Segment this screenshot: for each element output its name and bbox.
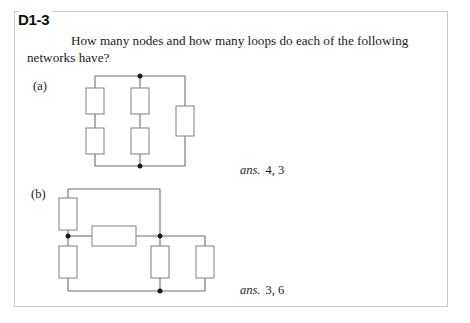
resistor-a-middle-upper [131, 88, 149, 114]
part-label-b: (b) [31, 187, 46, 201]
resistor-b-middle-horizontal [92, 226, 136, 246]
part-label-a: (a) [33, 79, 47, 93]
answer-b: ans.3, 6 [240, 283, 284, 297]
answer-a: ans.4, 3 [240, 163, 284, 177]
node-dot-a-top [138, 74, 143, 79]
answer-b-word: ans. [240, 283, 261, 297]
question-text: How many nodes and how many loops do eac… [27, 32, 437, 66]
node-dot-a-bottom [138, 164, 143, 169]
page-title: D1-3 [18, 11, 52, 29]
node-dot-b-middle [158, 234, 163, 239]
resistor-b-left-lower [59, 246, 77, 278]
scanned-page: D1-3 How many nodes and how many loops d… [0, 0, 470, 323]
resistor-b-left-upper [59, 198, 77, 230]
node-dot-b-left [66, 234, 71, 239]
resistor-b-center-lower [151, 246, 169, 278]
node-dot-b-bottom [158, 289, 163, 294]
answer-b-value: 3, 6 [266, 283, 285, 297]
resistor-b-right-lower [196, 246, 214, 278]
resistor-a-left-upper [86, 88, 104, 114]
resistor-a-left-lower [86, 128, 104, 154]
resistor-a-right [176, 106, 194, 136]
circuit-diagram-b [45, 182, 225, 307]
resistor-a-middle-lower [131, 128, 149, 154]
answer-a-word: ans. [240, 163, 261, 177]
answer-a-value: 4, 3 [266, 163, 285, 177]
circuit-diagram-a [60, 66, 210, 181]
